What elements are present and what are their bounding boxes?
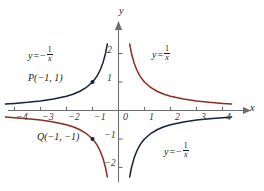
fraction-denominator: x [183,151,189,159]
ytick-label-neg2: −2 [104,158,116,168]
eq-y-var: y [164,147,168,157]
label-neg-reciprocal-upper: y = − 1 x [28,47,53,64]
curve-1 [5,117,107,177]
xtick-label-neg2: −2 [68,112,80,122]
fraction-numerator: 1 [164,45,170,52]
fraction-numerator: 1 [183,142,189,149]
point-marker-p [91,80,95,84]
y-axis-label: y [119,6,123,16]
fraction-denominator: x [164,54,170,62]
eq-equals: = [33,51,39,61]
eq-minus-sign: − [40,51,46,61]
label-reciprocal-upper: y = 1 x [152,46,170,63]
fraction-denominator: x [47,55,53,63]
ytick-label-1: 1 [107,73,112,83]
point-label-p: P(−1, 1) [28,73,63,83]
eq-y-var: y [152,50,156,60]
ytick-label-neg1: −1 [104,130,116,140]
xtick-label-2: 2 [175,112,180,122]
x-axis-label: x [250,103,254,113]
eq-minus-sign: − [176,147,182,157]
xtick-label-neg4: −4 [16,112,28,122]
fraction-one-over-x: 1 x [183,142,189,159]
point-label-q: Q(−1, −1) [37,132,79,142]
ytick-label-2: 2 [107,45,112,55]
eq-equals: = [157,50,163,60]
y-axis-arrow [115,21,122,30]
xtick-label-neg3: −3 [42,112,54,122]
xtick-label-neg1: −1 [94,112,106,122]
fraction-one-over-x: 1 x [164,45,170,62]
label-neg-reciprocal-lower: y = − 1 x [164,143,189,160]
reciprocal-function-plot [0,0,264,191]
graph-figure: −4 −3 −2 −1 0 1 2 3 4 2 1 −1 −2 y x y = … [0,0,264,191]
eq-y-var: y [28,51,32,61]
eq-equals: = [169,147,175,157]
curve-0 [130,44,232,104]
xtick-label-3: 3 [201,112,206,122]
fraction-numerator: 1 [47,46,53,53]
xtick-label-1: 1 [149,112,154,122]
point-marker-q [91,137,95,141]
xtick-label-0: 0 [123,112,128,122]
fraction-one-over-x: 1 x [47,46,53,63]
xtick-label-4: 4 [226,112,231,122]
